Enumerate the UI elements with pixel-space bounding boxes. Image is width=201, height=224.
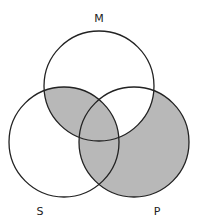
venn-svg [0,0,201,224]
label-m: M [94,12,104,25]
label-p: P [154,205,161,218]
label-s: S [37,205,44,218]
shaded-regions [44,31,189,197]
venn-diagram: M S P [0,0,201,224]
